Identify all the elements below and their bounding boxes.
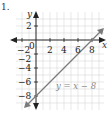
y-tick-label-2: 2: [26, 21, 32, 31]
equation-label: y = x − 8: [55, 81, 97, 91]
x-tick-label-8: 8: [89, 45, 95, 55]
coordinate-plane: y x 0 −2 2 4 6 8 2 −2 −4 −6 −8 y = x − 8: [0, 0, 112, 121]
y-tick-label-neg6: −6: [18, 77, 32, 87]
x-tick-label-6: 6: [75, 45, 81, 55]
y-tick-label-neg8: −8: [18, 91, 32, 101]
x-tick-label-2: 2: [47, 45, 53, 55]
x-axis-label: x: [102, 40, 107, 50]
x-axis-left-arrow-icon: [10, 37, 17, 43]
y-axis-label: y: [26, 9, 33, 19]
y-axis-up-arrow-icon: [33, 11, 39, 18]
y-axis-down-arrow-icon: [33, 103, 39, 110]
x-tick-label-4: 4: [61, 45, 67, 55]
y-tick-label-neg4: −4: [18, 63, 32, 73]
